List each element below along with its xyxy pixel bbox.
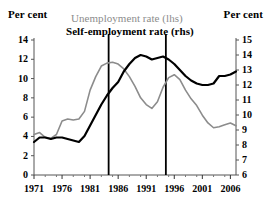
left-axis-tick-label: 8 (10, 93, 28, 103)
right-axis-tick-label: 12 (242, 80, 260, 90)
right-axis-tick-label: 9 (242, 125, 260, 135)
series-line-unemployment-rate (34, 62, 236, 138)
left-axis-tick-label: 10 (10, 74, 28, 84)
left-axis-tick-label: 4 (10, 131, 28, 141)
x-axis-tick-label: 2006 (213, 184, 247, 194)
series-line-self-employment-rate (34, 55, 236, 142)
left-axis-tick-label: 12 (10, 54, 28, 64)
left-axis-tick-label: 0 (10, 170, 28, 180)
right-axis-tick-label: 13 (242, 65, 260, 75)
right-axis-tick-label: 10 (242, 110, 260, 120)
right-axis-tick-label: 8 (242, 140, 260, 150)
left-axis-tick-label: 6 (10, 112, 28, 122)
right-axis-tick-label: 11 (242, 95, 260, 105)
plot-area (0, 0, 269, 205)
left-axis-tick-label: 2 (10, 151, 28, 161)
chart-container: Per cent Per cent Unemployment rate (lhs… (0, 0, 269, 205)
right-axis-tick-label: 14 (242, 50, 260, 60)
right-axis-tick-label: 15 (242, 35, 260, 45)
right-axis-tick-label: 7 (242, 155, 260, 165)
right-axis-tick-label: 6 (242, 170, 260, 180)
left-axis-tick-label: 14 (10, 35, 28, 45)
